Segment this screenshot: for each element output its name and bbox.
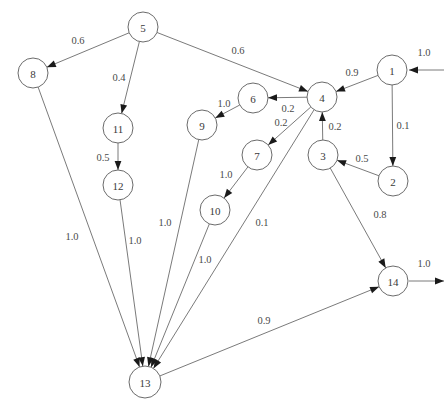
edge-weight-9-to-13: 1.0 xyxy=(158,217,171,228)
node-label-7: 7 xyxy=(254,150,260,162)
node-label-4: 4 xyxy=(319,92,325,104)
arrowhead-source-inflow-to-1 xyxy=(409,67,418,74)
arrowhead-6-to-9 xyxy=(215,111,225,118)
node-label-10: 10 xyxy=(210,205,222,217)
node-label-1: 1 xyxy=(389,65,395,77)
arrowhead-5-to-11 xyxy=(120,104,127,114)
node-label-14: 14 xyxy=(388,276,400,288)
arrowhead-4-to-6 xyxy=(268,94,277,101)
node-14[interactable]: 14 xyxy=(378,266,408,296)
arrowhead-1-to-4 xyxy=(336,85,346,91)
node-label-9: 9 xyxy=(199,120,205,132)
node-label-6: 6 xyxy=(250,93,256,105)
node-4[interactable]: 4 xyxy=(307,82,337,112)
node-label-8: 8 xyxy=(30,68,36,80)
arrowhead-7-to-10 xyxy=(224,189,232,198)
edge-13-to-14 xyxy=(160,287,379,376)
edge-1-to-2 xyxy=(392,85,393,166)
edge-weight-3-to-4: 0.2 xyxy=(328,121,341,132)
edge-weight-source-inflow-to-1: 1.0 xyxy=(417,47,430,58)
edge-9-to-13 xyxy=(148,140,198,367)
node-1[interactable]: 1 xyxy=(377,55,407,85)
arrowhead-5-to-4 xyxy=(298,85,308,91)
arrowhead-13-to-14 xyxy=(369,287,379,294)
edge-weight-6-to-9: 1.0 xyxy=(217,98,230,109)
node-label-12: 12 xyxy=(113,180,124,192)
node-9[interactable]: 9 xyxy=(187,110,217,140)
edge-12-to-13 xyxy=(120,200,143,366)
edge-weight-3-to-14: 0.8 xyxy=(373,209,386,220)
edge-weight-5-to-8: 0.6 xyxy=(71,35,84,46)
edge-weight-5-to-11: 0.4 xyxy=(112,72,126,83)
edge-weight-12-to-13: 1.0 xyxy=(128,235,141,246)
edge-weight-4-to-13: 0.1 xyxy=(255,217,268,228)
node-2[interactable]: 2 xyxy=(378,166,408,196)
arrowhead-8-to-13 xyxy=(133,357,139,367)
edge-weight-4-to-6: 0.2 xyxy=(281,103,294,114)
arrowhead-5-to-8 xyxy=(47,61,57,68)
node-label-3: 3 xyxy=(320,150,326,162)
arrowhead-1-to-2 xyxy=(389,157,396,166)
edge-weight-7-to-10: 1.0 xyxy=(219,169,232,180)
graph-canvas: 0.60.40.60.50.90.10.50.20.80.20.21.01.01… xyxy=(0,0,448,408)
edge-weight-1-to-2: 0.1 xyxy=(396,120,409,131)
edge-weight-1-to-4: 0.9 xyxy=(345,67,358,78)
node-6[interactable]: 6 xyxy=(238,83,268,113)
node-13[interactable]: 13 xyxy=(129,366,161,398)
edge-weight-sink-outflow-from-14: 1.0 xyxy=(417,258,430,269)
node-3[interactable]: 3 xyxy=(308,140,338,170)
edges-layer xyxy=(38,32,444,376)
node-10[interactable]: 10 xyxy=(200,195,230,225)
node-label-5: 5 xyxy=(140,22,146,34)
node-8[interactable]: 8 xyxy=(18,58,48,88)
node-label-11: 11 xyxy=(113,123,124,135)
edge-10-to-13 xyxy=(151,224,209,367)
edge-4-to-13 xyxy=(153,110,314,369)
edge-weight-11-to-12: 0.5 xyxy=(96,152,109,163)
node-11[interactable]: 11 xyxy=(103,113,133,143)
edge-5-to-8 xyxy=(47,33,129,67)
arrowhead-2-to-3 xyxy=(337,160,347,166)
edge-5-to-4 xyxy=(157,32,308,91)
node-5[interactable]: 5 xyxy=(128,12,158,42)
node-7[interactable]: 7 xyxy=(242,140,272,170)
edge-weight-5-to-4: 0.6 xyxy=(231,45,244,56)
edge-weight-4-to-7: 0.2 xyxy=(274,117,287,128)
edge-weight-13-to-14: 0.9 xyxy=(257,315,270,326)
node-label-2: 2 xyxy=(390,176,396,188)
directed-graph-diagram: 0.60.40.60.50.90.10.50.20.80.20.21.01.01… xyxy=(0,0,448,408)
node-12[interactable]: 12 xyxy=(103,170,133,200)
arrowhead-11-to-12 xyxy=(115,161,122,170)
arrowhead-3-to-4 xyxy=(319,112,326,121)
arrowhead-sink-outflow-from-14 xyxy=(435,278,444,285)
edge-weight-8-to-13: 1.0 xyxy=(65,231,78,242)
arrowhead-3-to-14 xyxy=(378,258,385,268)
edge-weight-10-to-13: 1.0 xyxy=(198,254,211,265)
node-label-13: 13 xyxy=(140,377,152,389)
edge-weight-2-to-3: 0.5 xyxy=(355,153,368,164)
